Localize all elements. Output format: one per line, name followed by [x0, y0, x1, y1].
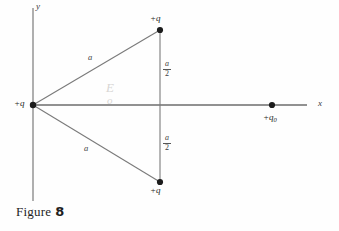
upper-side-line	[33, 30, 160, 105]
charge-dot-top	[157, 27, 163, 33]
side-label-upper: a	[88, 53, 92, 62]
figure-caption-number: 8	[55, 204, 64, 219]
charge-label-test-subscript: 0	[274, 116, 277, 123]
x-axis-label: x	[318, 99, 322, 108]
charge-label-origin: +q	[14, 99, 25, 108]
diagram-svg	[0, 0, 339, 231]
fraction-lower: a 2	[163, 134, 171, 152]
half-distance-label-lower: a 2	[163, 134, 171, 153]
fraction-upper: a 2	[163, 60, 171, 78]
fraction-lower-denominator: 2	[163, 144, 171, 152]
half-distance-label-upper: a 2	[163, 60, 171, 79]
charge-label-test: +q0	[263, 113, 277, 124]
figure-caption-word: Figure	[16, 204, 51, 219]
charge-dot-test	[269, 102, 275, 108]
fraction-upper-denominator: 2	[163, 70, 171, 78]
lower-side-line	[33, 105, 160, 182]
charge-dot-origin	[30, 102, 36, 108]
y-axis-label: y	[36, 2, 40, 11]
charge-label-top: +q	[150, 14, 161, 23]
figure-caption: Figure8	[16, 204, 64, 220]
side-label-lower: a	[84, 144, 88, 153]
figure-canvas: E o x y +q +q +q +q0 a a a 2 a 2 Figure8	[0, 0, 339, 231]
charge-label-bottom: +q	[150, 186, 161, 195]
fraction-lower-numerator: a	[163, 134, 171, 142]
fraction-upper-numerator: a	[163, 60, 171, 68]
charge-label-test-text: +q	[263, 112, 274, 122]
electric-field-ghost-subscript: o	[107, 94, 113, 106]
